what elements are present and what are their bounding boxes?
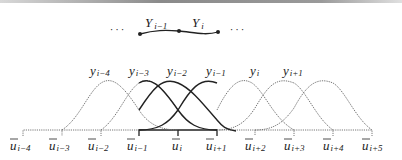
curve-y-i+1 [255, 81, 372, 130]
curve-label: yi [248, 63, 260, 78]
curve-y-i-3-right [139, 81, 217, 130]
solid-basis-curves [139, 81, 236, 131]
curve-label: yi−3 [127, 63, 149, 78]
knot-label: ui+4 [323, 138, 344, 153]
segment-label-Yi-1: Yi−1 [145, 15, 167, 31]
curve-label: yi+1 [281, 63, 303, 78]
chain-node [177, 29, 181, 33]
curve-label: yi−2 [165, 63, 187, 78]
curve-label: yi−1 [204, 63, 226, 78]
dotted-basis-curves [62, 81, 372, 130]
curve-y-i-2 [139, 81, 236, 131]
knot-label: ui+1 [206, 138, 227, 153]
segment-label-Yi: Yi [192, 15, 204, 31]
left-ellipsis: · · · [110, 23, 124, 35]
right-ellipsis: · · · [230, 23, 244, 35]
curve-label: yi−4 [88, 63, 110, 78]
curve-labels: yi−4 yi−3 yi−2 yi−1 yi yi+1 [88, 63, 303, 78]
knot-label: ui−4 [10, 138, 31, 153]
bspline-diagram: · · · · · · Yi−1 Yi yi−4 yi−3 yi−2 yi−1 … [0, 0, 402, 160]
knot-labels: ui−4 ui−3 ui−2 ui−1 ui ui+1 ui+2 ui+3 ui… [10, 138, 383, 153]
chain-node [138, 32, 142, 36]
chain-node [216, 30, 220, 34]
knot-axis [23, 130, 372, 136]
curve-y-i-1-right [217, 81, 294, 130]
knot-label: ui−3 [49, 138, 70, 153]
knot-label: ui [172, 138, 183, 153]
top-chain: · · · · · · Yi−1 Yi [110, 15, 244, 36]
knot-label: ui−2 [88, 138, 109, 153]
knot-label: ui+5 [362, 138, 383, 153]
knot-label: ui+3 [284, 138, 305, 153]
curve-y-i [217, 81, 333, 130]
knot-label: ui−1 [127, 138, 148, 153]
knot-label: ui+2 [245, 138, 266, 153]
